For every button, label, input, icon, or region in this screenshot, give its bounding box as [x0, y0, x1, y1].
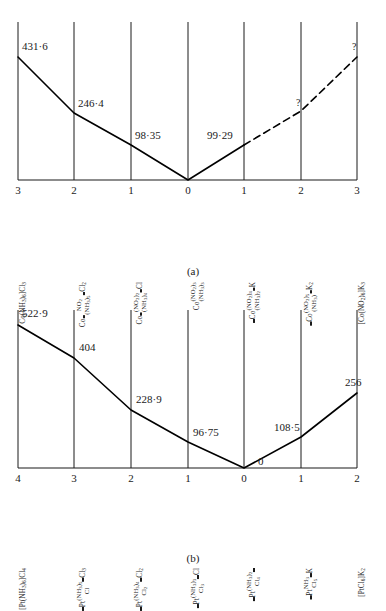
figure-b: 522·9 404 228·9 96·75 0 108·5 256 4 3 2 … [0, 290, 386, 574]
caption-b: (b) [0, 552, 386, 564]
tick-a-4: 1 [241, 183, 247, 197]
tick-a-3: 0 [185, 183, 191, 197]
tick-b-1: 3 [71, 471, 77, 485]
formula-pt-nh3-6-cl4: [Pt(NH3)6]Cl4 [20, 568, 28, 610]
formula-pt-nh3-5-cl-cl3: Pt(NH3)5ClCl3 [76, 568, 90, 611]
value-label-b-5: 108·5 [274, 422, 300, 433]
value-label-a-6: ? [352, 42, 356, 52]
figure-a: 431·6 246·4 98·35 99·29 ? ? 3 2 1 0 1 2 … [0, 0, 386, 290]
value-label-b-3: 96·75 [193, 427, 219, 438]
formula-pt-nh3-4-cl2-cl2: Pt(NH3)4Cl2Cl2 [133, 568, 148, 611]
formula-pt-nh3-cl5-k: PtNH3Cl5K [303, 568, 318, 599]
value-label-b-1: 404 [79, 342, 96, 353]
tick-b-5: 1 [298, 471, 304, 485]
value-label-b-6: 256 [345, 377, 362, 388]
value-label-a-2: 98·35 [135, 130, 161, 141]
tick-a-0: 3 [15, 183, 21, 197]
plot-area-a [0, 0, 386, 200]
caption-a: (a) [0, 265, 386, 277]
x-axis-ticks-b: 4 3 2 1 0 1 2 [0, 471, 386, 485]
tick-a-2: 1 [128, 183, 134, 197]
tick-a-1: 2 [71, 183, 77, 197]
tick-b-2: 2 [128, 471, 134, 485]
tick-b-6: 2 [354, 471, 360, 485]
value-label-b-2: 228·9 [136, 394, 162, 405]
formula-pt-cl6-k2: [PtCl6]K2 [359, 568, 367, 597]
formula-pt-nh3-2-cl4: Pt(NH3)2Cl4 [246, 568, 261, 601]
tick-b-3: 1 [185, 471, 191, 485]
value-label-a-0: 431·6 [22, 41, 48, 52]
tick-a-6: 3 [354, 183, 360, 197]
chart-svg-a [0, 0, 386, 200]
value-label-a-1: 246·4 [78, 98, 104, 109]
value-label-b-0: 522·9 [22, 308, 48, 319]
value-label-a-5: ? [296, 98, 300, 108]
x-axis-ticks-a: 3 2 1 0 1 2 3 [0, 183, 386, 197]
formula-pt-nh3-3-cl3-cl: Pt(NH3)3Cl3Cl [190, 568, 205, 608]
tick-b-0: 4 [15, 471, 21, 485]
plot-area-b [0, 290, 386, 485]
value-label-a-4: 99·29 [207, 130, 233, 141]
chart-svg-b [0, 290, 386, 485]
tick-a-5: 2 [298, 183, 304, 197]
tick-b-4: 0 [241, 471, 247, 485]
value-label-b-4: 0 [258, 456, 264, 467]
